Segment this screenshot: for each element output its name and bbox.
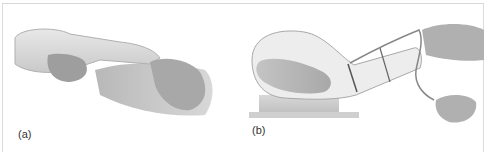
panel-a: (a) bbox=[0, 0, 244, 152]
panel-b: (b) bbox=[244, 0, 488, 152]
forearm-bag-illustration bbox=[0, 0, 244, 152]
panel-a-label: (a) bbox=[18, 128, 31, 140]
infant-bag-illustration bbox=[244, 0, 488, 152]
panel-b-label: (b) bbox=[252, 124, 265, 136]
